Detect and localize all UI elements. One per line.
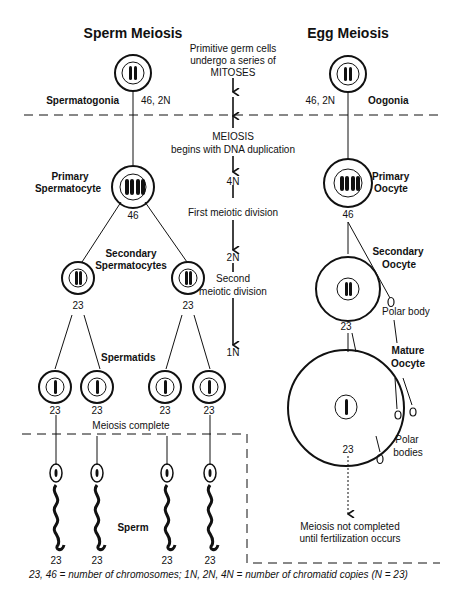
- spermatid-count-4: 23: [203, 405, 214, 417]
- sperm-count-3: 23: [161, 555, 172, 567]
- polar-body-label: Polar body: [382, 306, 430, 318]
- oogonia-label: Oogonia: [368, 95, 409, 107]
- spermatid-count-2: 23: [91, 405, 102, 417]
- second-division-1: Second: [216, 273, 250, 285]
- primary-oocyte-label-2: Oocyte: [374, 183, 408, 195]
- mitoses-text-1: Primitive germ cells: [190, 43, 277, 55]
- meiosis-text-2: begins with DNA duplication: [171, 144, 295, 156]
- sperm-count-1: 23: [50, 555, 61, 567]
- polar-bodies-label-2: bodies: [393, 447, 422, 459]
- meiosis-not-completed-1: Meiosis not completed: [300, 521, 400, 533]
- primary-spermatocyte-count: 46: [127, 210, 138, 222]
- sperm-count-4: 23: [204, 555, 215, 567]
- oogonia-count: 46, 2N: [306, 95, 335, 107]
- secondary-spermatocytes-label-2: Spermatocytes: [95, 260, 167, 272]
- mitoses-text-3: MITOSES: [211, 67, 256, 79]
- spermatids-label: Spermatids: [101, 352, 155, 364]
- polar-bodies-label-1: Polar: [395, 434, 418, 446]
- spermatogonia-label: Spermatogonia: [46, 95, 119, 107]
- primary-oocyte-label-1: Primary: [372, 171, 409, 183]
- second-division-2: meiotic division: [199, 286, 267, 298]
- mitoses-text-2: undergo a series of: [190, 55, 276, 67]
- first-meiotic-division: First meiotic division: [188, 207, 278, 219]
- secondary-spermatocytes-label-1: Secondary: [105, 248, 156, 260]
- primary-spermatocyte-label-1: Primary: [51, 171, 88, 183]
- spermatid-count-3: 23: [159, 405, 170, 417]
- footnote: 23, 46 = number of chromosomes; 1N, 2N, …: [29, 569, 408, 581]
- stage-2n: 2N: [227, 252, 240, 264]
- egg-meiosis-title: Egg Meiosis: [307, 27, 389, 39]
- mature-oocyte-label-2: Oocyte: [391, 358, 425, 370]
- mature-oocyte-label-1: Mature: [392, 345, 425, 357]
- secondary-count-right: 23: [182, 300, 193, 312]
- sperm-count-2: 23: [91, 555, 102, 567]
- secondary-oocyte-label-2: Oocyte: [382, 259, 416, 271]
- meiosis-complete-label: Meiosis complete: [92, 420, 169, 432]
- primary-spermatocyte-label-2: Spermatocyte: [35, 183, 101, 195]
- spermatid-count-1: 23: [49, 405, 60, 417]
- stage-1n: 1N: [227, 347, 240, 359]
- mature-oocyte-count: 23: [342, 444, 353, 456]
- meiosis-text-1: MEIOSIS: [212, 131, 254, 143]
- secondary-oocyte-label-1: Secondary: [372, 246, 423, 258]
- meiosis-not-completed-2: until fertilization occurs: [299, 533, 400, 545]
- spermatogonia-count: 46, 2N: [141, 95, 170, 107]
- sperm-label: Sperm: [117, 522, 148, 534]
- stage-4n: 4N: [227, 176, 240, 188]
- secondary-count-left: 23: [72, 300, 83, 312]
- secondary-oocyte-count: 23: [340, 321, 351, 333]
- primary-oocyte-count: 46: [342, 209, 353, 221]
- sperm-meiosis-title: Sperm Meiosis: [84, 27, 183, 39]
